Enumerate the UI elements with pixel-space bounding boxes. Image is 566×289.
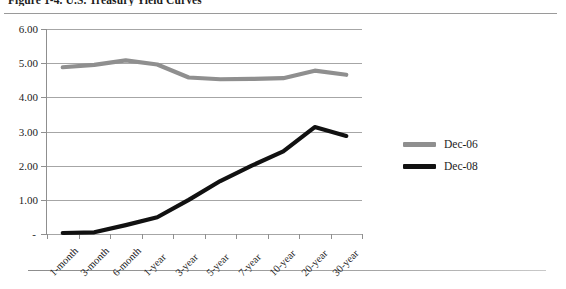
x-axis-label: 1-month [48,246,81,279]
x-axis-tick [110,234,111,239]
y-axis-label: 2.00 [19,160,38,171]
x-axis-label: 30-year [331,248,361,278]
y-axis-tick [41,200,46,201]
x-axis-tick [142,234,143,239]
x-axis-label: 20-year [300,248,330,278]
y-axis-label: 3.00 [19,126,38,137]
plot-area: 6.005.004.003.002.001.00- 1-month3-month… [47,29,362,234]
y-axis-label: 5.00 [19,58,38,69]
x-axis-label: 10-year [268,248,298,278]
top-rule [4,13,557,14]
y-axis-tick [41,234,46,235]
figure-container: Figure 1-4. U.S. Treasury Yield Curves 6… [0,0,566,289]
x-axis-tick [268,234,269,239]
y-axis-tick [41,29,46,30]
x-axis-label: 1-year [142,252,168,278]
x-axis-tick [331,234,332,239]
x-axis-label: 3-month [79,246,112,279]
legend-label: Dec-08 [444,160,478,172]
legend-item-dec-06[interactable]: Dec-06 [403,133,478,155]
bottom-rule [28,270,546,271]
x-axis-tick [173,234,174,239]
x-axis-label: 5-year [205,252,231,278]
x-axis-tick [362,234,363,239]
series-line-dec-08 [63,127,347,233]
legend-label: Dec-06 [444,138,478,150]
y-axis-tick [41,166,46,167]
y-axis-tick [41,63,46,64]
legend-swatch [403,142,436,147]
y-axis-tick [41,97,46,98]
y-axis-label: 4.00 [19,92,38,103]
series-line-dec-06 [63,60,347,79]
legend-swatch [403,164,436,169]
y-axis-label: 1.00 [19,194,38,205]
x-axis-label: 6-month [111,246,144,279]
y-axis-label: - [32,229,36,240]
figure-caption: Figure 1-4. U.S. Treasury Yield Curves [8,0,202,6]
chart-legend: Dec-06Dec-08 [403,133,478,177]
y-axis-tick [41,132,46,133]
x-axis-label: 3-year [174,252,200,278]
x-axis-tick [236,234,237,239]
x-axis-tick [299,234,300,239]
legend-item-dec-08[interactable]: Dec-08 [403,155,478,177]
x-axis-tick [79,234,80,239]
x-axis-tick [205,234,206,239]
x-axis-label: 7-year [237,252,263,278]
y-axis-label: 6.00 [19,24,38,35]
series-lines [47,29,362,234]
x-axis-tick [47,234,48,239]
